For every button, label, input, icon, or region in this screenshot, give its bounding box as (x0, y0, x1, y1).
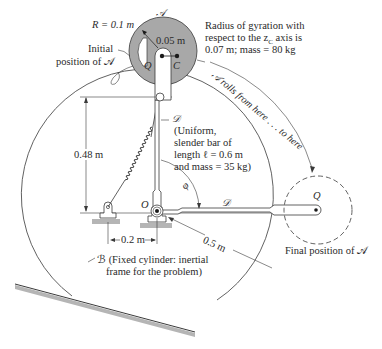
bar-desc-line3: length ℓ = 0.6 m (174, 149, 243, 160)
point-q-label: Q (144, 60, 152, 71)
offset-label: 0.05 m (156, 35, 185, 46)
bar-d-horizontal-label: 𝒟 (222, 197, 230, 208)
point-o-label: O (141, 199, 149, 210)
initial-leader (118, 50, 130, 56)
bar-desc-line4: and mass = 35 kg) (174, 161, 251, 172)
gyration-leader (197, 60, 205, 62)
cylinder-b-line1: ℬ (Fixed cylinder: inertial (97, 254, 208, 265)
bar-d-label: 𝒟 (172, 113, 180, 124)
initial-position-line2: position of 𝒜 (56, 56, 114, 67)
gyration-line1: Radius of gyration with (205, 20, 304, 31)
inclined-ground (15, 284, 195, 337)
a-symbol-loop (111, 66, 133, 84)
gyration-line3: 0.07 m; mass = 80 kg (205, 44, 296, 55)
initial-position-line1: Initial (88, 43, 113, 54)
spring (108, 98, 158, 207)
radius-label: R = 0.1 m (92, 19, 134, 30)
bar-desc-line2: slender bar of (174, 137, 232, 148)
point-c-label: C (173, 60, 180, 71)
spacing-dim-label: 0.2 m (121, 234, 145, 245)
height-dim-label: 0.48 m (74, 149, 103, 160)
disk-a-initial (129, 17, 197, 100)
dynamics-diagram (0, 0, 382, 349)
body-a-label: 𝒜 (156, 7, 165, 18)
point-q-final-label: Q (313, 190, 321, 201)
joint-o (151, 205, 163, 217)
bar-d-initial (153, 100, 161, 210)
bar-desc-line1: (Uniform, (174, 125, 216, 136)
gyration-line2-end: axis is (273, 32, 302, 43)
final-position-label: Final position of 𝒜 (285, 245, 367, 256)
joint-top (156, 93, 164, 101)
bar-d-final (162, 205, 321, 215)
cylinder-b-line2: frame for the problem) (106, 266, 202, 277)
gyration-line2-text: respect to the z (205, 32, 268, 43)
